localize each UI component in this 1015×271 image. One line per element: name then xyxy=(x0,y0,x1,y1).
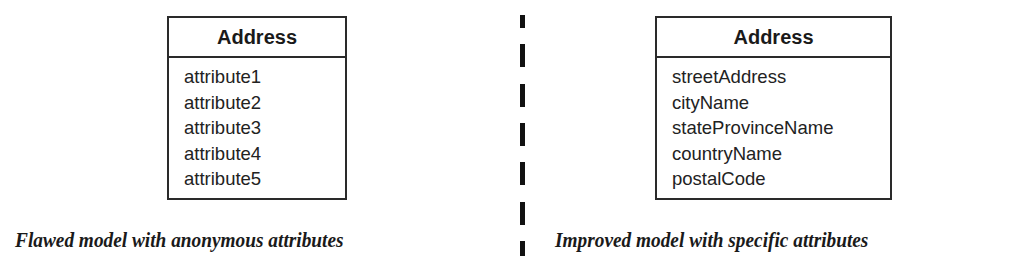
attribute: attribute4 xyxy=(184,141,345,167)
divider-dash xyxy=(520,241,525,256)
divider-dash xyxy=(520,202,525,225)
divider-dash xyxy=(520,84,525,107)
attribute: stateProvinceName xyxy=(672,115,890,141)
flawed-model-caption: Flawed model with anonymous attributes xyxy=(15,228,343,253)
attribute: attribute5 xyxy=(184,166,345,192)
improved-model-caption: Improved model with specific attributes xyxy=(555,228,868,253)
flawed-address-class: Address attribute1 attribute2 attribute3… xyxy=(167,16,347,200)
class-name: Address xyxy=(657,18,890,58)
attribute: postalCode xyxy=(672,166,890,192)
attribute: cityName xyxy=(672,90,890,116)
class-name: Address xyxy=(169,18,345,58)
divider-dash xyxy=(520,162,525,185)
divider-dash xyxy=(520,44,525,67)
attribute: streetAddress xyxy=(672,64,890,90)
attribute: attribute2 xyxy=(184,90,345,116)
attribute-list: streetAddress cityName stateProvinceName… xyxy=(657,58,890,192)
attribute-list: attribute1 attribute2 attribute3 attribu… xyxy=(169,58,345,192)
attribute: countryName xyxy=(672,141,890,167)
divider-dash xyxy=(520,15,525,28)
improved-address-class: Address streetAddress cityName stateProv… xyxy=(655,16,892,200)
divider-dash xyxy=(520,123,525,146)
attribute: attribute1 xyxy=(184,64,345,90)
attribute: attribute3 xyxy=(184,115,345,141)
